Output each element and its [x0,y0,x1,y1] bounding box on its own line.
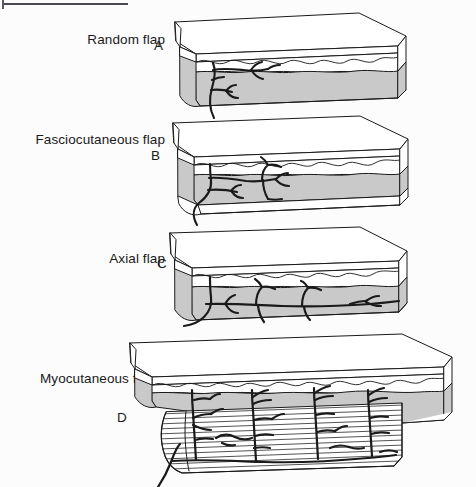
slab-b-left-face-fascia [178,196,201,215]
panel-label-a: Random flap [10,32,165,48]
slab-d-muscle-outline [161,403,402,473]
slab-b-epidermis [194,149,400,165]
slab-c-right-face-fat [399,277,407,312]
slab-c-bottom-edge [196,303,407,320]
slab-d-muscle-seam [185,411,189,471]
panel-letter-c: C [157,256,167,271]
slab-c-left-edge [170,233,176,260]
panel-letter-a: A [154,38,163,53]
slab-c-wavy-line [193,271,399,278]
slab-b-left-face [178,149,198,206]
vessel-c [184,277,399,326]
slab-c-dermis [192,268,399,288]
vessel-d [158,386,397,487]
slab-d-right-face [444,357,452,391]
flap-diagram-b [0,0,476,487]
flap-diagram-d [0,0,476,487]
slab-a-wavy-line [197,57,398,64]
slab-d-muscle-body [161,403,402,473]
slab-c-left-face [175,260,196,321]
slab-a-fat [196,70,398,106]
slab-d-left-edge [130,343,136,369]
slab-b-wavy-line [195,160,400,167]
muscle-striations-d [156,405,404,474]
slab-c-top-face [170,227,407,268]
slab-a-left-face [180,47,200,107]
slab-b-left-face-skin [178,149,194,165]
slab-b-right-face [400,139,408,174]
slab-d-top-face [130,334,452,377]
panel-letter-b: B [151,148,160,163]
slab-b-dermis [194,156,400,176]
panel-label-b: Fasciocutaneous flap [10,132,165,148]
slab-a-right-face-fat [398,62,406,98]
slab-b-bottom-edge [201,197,408,214]
slab-b-fascia [198,196,400,214]
panel-label-d: Myocutaneous flap [10,371,155,387]
vessel-b [194,157,289,225]
slab-d-dermis [152,374,444,394]
slab-a-top-face [175,13,406,54]
figure-page: Random flap A [0,0,476,487]
slab-d-fat [152,391,444,423]
vessel-a [210,62,280,118]
top-rule [2,3,128,5]
panel-label-c: Axial flap [10,251,165,267]
top-rule-tick [2,0,4,9]
slab-c-fat [192,285,399,320]
vessel-c-axial-trunk [206,301,399,306]
slab-c-epidermis [192,261,399,276]
slab-a-bottom-edge [200,90,406,106]
slab-a-left-edge [175,22,181,47]
slab-d-paddle-underside [402,412,452,423]
slab-d-right-face-fat [444,383,452,420]
slab-a-left-face-skin [180,47,196,62]
panel-letter-d: D [117,410,127,425]
slab-b-left-edge [173,123,179,149]
slab-c-right-face [399,251,407,286]
slab-b-top-face [173,116,408,157]
slab-b-right-face-fascia [400,188,408,205]
slab-b-fat [194,173,400,205]
slab-a-right-face [398,36,406,71]
slab-c-left-face-skin [175,260,192,276]
slab-b-right-face-fat [400,166,408,196]
slab-d-epidermis [152,367,444,385]
slab-a-dermis [196,53,398,73]
flap-diagram-a [0,0,476,487]
slab-a-epidermis [196,46,398,62]
slab-d-wavy-line [153,378,444,387]
vessel-d-trunk [172,455,396,462]
flap-diagram-c [0,0,476,487]
